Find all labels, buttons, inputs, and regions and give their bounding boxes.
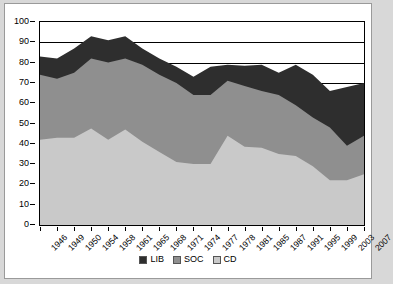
y-tick-label: 100 bbox=[14, 17, 29, 26]
x-tick-label: 1987 bbox=[288, 233, 308, 253]
x-tick-mark bbox=[228, 227, 229, 231]
x-tick-mark bbox=[313, 227, 314, 231]
legend-label: CD bbox=[224, 255, 237, 264]
x-tick-mark bbox=[245, 227, 246, 231]
x-tick-label: 2007 bbox=[374, 233, 393, 253]
y-tick-mark bbox=[30, 82, 35, 83]
x-tick-mark bbox=[159, 227, 160, 231]
legend-swatch-icon bbox=[139, 256, 147, 264]
y-tick-mark bbox=[30, 183, 35, 184]
x-tick-mark bbox=[74, 227, 75, 231]
x-tick-mark bbox=[40, 227, 41, 231]
y-tick-label: 20 bbox=[19, 179, 29, 188]
y-tick-label: 40 bbox=[19, 139, 29, 148]
x-tick-label: 1995 bbox=[322, 233, 342, 253]
x-tick-mark bbox=[108, 227, 109, 231]
chart-legend: LIBSOCCD bbox=[5, 255, 371, 264]
x-tick-label: 1946 bbox=[50, 233, 70, 253]
x-tick-label: 1965 bbox=[152, 233, 172, 253]
x-tick-mark bbox=[296, 227, 297, 231]
x-tick-label: 1977 bbox=[220, 233, 240, 253]
y-tick-label: 70 bbox=[19, 78, 29, 87]
x-tick-mark bbox=[347, 227, 348, 231]
y-tick-label: 10 bbox=[19, 200, 29, 209]
x-tick-mark bbox=[57, 227, 58, 231]
legend-label: LIB bbox=[150, 255, 164, 264]
y-tick-mark bbox=[30, 204, 35, 205]
y-tick-mark bbox=[30, 224, 35, 225]
y-axis: 1009080706050403020100 bbox=[5, 14, 35, 233]
x-tick-mark bbox=[193, 227, 194, 231]
x-tick-label: 1949 bbox=[67, 233, 87, 253]
x-tick-mark bbox=[125, 227, 126, 231]
y-tick-mark bbox=[30, 123, 35, 124]
y-tick-mark bbox=[30, 62, 35, 63]
x-tick-mark bbox=[364, 227, 365, 231]
y-tick-label: 30 bbox=[19, 159, 29, 168]
legend-item-soc: SOC bbox=[173, 255, 204, 264]
x-tick-mark bbox=[142, 227, 143, 231]
y-tick-label: 0 bbox=[24, 220, 29, 229]
x-tick-mark bbox=[176, 227, 177, 231]
x-tick-label: 1999 bbox=[339, 233, 359, 253]
x-tick-label: 1974 bbox=[203, 233, 223, 253]
x-tick-mark bbox=[262, 227, 263, 231]
x-tick-label: 1961 bbox=[135, 233, 155, 253]
x-tick-label: 1978 bbox=[237, 233, 257, 253]
legend-swatch-icon bbox=[173, 256, 181, 264]
plot-area bbox=[39, 21, 365, 226]
y-tick-label: 80 bbox=[19, 58, 29, 67]
legend-label: SOC bbox=[184, 255, 204, 264]
chart-frame: 1009080706050403020100 19461949195019541… bbox=[4, 3, 372, 279]
legend-item-cd: CD bbox=[213, 255, 237, 264]
x-tick-label: 1981 bbox=[254, 233, 274, 253]
x-tick-label: 1950 bbox=[84, 233, 104, 253]
stacked-area-series bbox=[40, 22, 364, 225]
x-tick-label: 1985 bbox=[271, 233, 291, 253]
y-tick-label: 90 bbox=[19, 37, 29, 46]
y-tick-mark bbox=[30, 102, 35, 103]
y-tick-label: 60 bbox=[19, 98, 29, 107]
x-tick-mark bbox=[91, 227, 92, 231]
y-tick-mark bbox=[30, 163, 35, 164]
x-tick-label: 1991 bbox=[305, 233, 325, 253]
y-tick-mark bbox=[30, 143, 35, 144]
x-tick-label: 1954 bbox=[101, 233, 121, 253]
x-tick-label: 2003 bbox=[356, 233, 376, 253]
x-tick-mark bbox=[279, 227, 280, 231]
x-tick-label: 1958 bbox=[118, 233, 138, 253]
x-tick-mark bbox=[330, 227, 331, 231]
legend-item-lib: LIB bbox=[139, 255, 164, 264]
x-tick-mark bbox=[211, 227, 212, 231]
y-tick-label: 50 bbox=[19, 119, 29, 128]
y-tick-mark bbox=[30, 41, 35, 42]
legend-swatch-icon bbox=[213, 256, 221, 264]
y-tick-mark bbox=[30, 21, 35, 22]
